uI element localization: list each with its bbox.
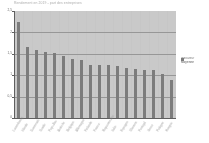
plot-inner bbox=[14, 11, 176, 118]
legend-item-1: Moyenne bbox=[181, 61, 208, 64]
chart-title: Rendement en 2019 - part des entreprises bbox=[14, 0, 164, 7]
y-axis-tick-label: 1,5 bbox=[1, 52, 12, 55]
bar bbox=[98, 65, 102, 119]
y-axis-labels: 2,521,510,50 bbox=[0, 0, 12, 143]
plot-column-stripe bbox=[140, 11, 141, 118]
plot-column-stripe bbox=[86, 11, 87, 118]
plot-column-stripe bbox=[158, 11, 159, 118]
y-axis-line bbox=[14, 11, 15, 119]
plot-column-stripe bbox=[32, 11, 33, 118]
x-axis-tick-label: Autriche bbox=[58, 122, 66, 133]
y-axis-tick-mark bbox=[12, 118, 14, 119]
x-axis-tick-label: France bbox=[94, 123, 101, 133]
bar bbox=[125, 68, 129, 119]
plot-column-stripe bbox=[167, 11, 168, 118]
bar bbox=[143, 70, 147, 118]
x-axis-labels: LuxembourgIrlandeDanemarkSuedePays-BasAu… bbox=[14, 119, 184, 143]
bar-chart: Rendement en 2019 - part des entreprises… bbox=[0, 0, 209, 143]
y-axis-tick-label: 1 bbox=[1, 73, 12, 76]
x-axis-tick-label: Pologne bbox=[157, 122, 165, 133]
y-axis-tick-label: 0,5 bbox=[1, 95, 12, 98]
x-axis-tick-label: Italie bbox=[112, 125, 118, 132]
x-axis-tick-label: Hongrie bbox=[166, 122, 174, 133]
bar bbox=[26, 47, 30, 118]
y-axis-tick-mark bbox=[12, 75, 14, 76]
y-axis-tick-mark bbox=[12, 97, 14, 98]
plot-column-stripe bbox=[77, 11, 78, 118]
gridline bbox=[14, 32, 176, 33]
plot-column-stripe bbox=[95, 11, 96, 118]
plot-column-stripe bbox=[23, 11, 24, 118]
y-axis-tick-label: 0 bbox=[1, 116, 12, 119]
plot-column-stripe bbox=[41, 11, 42, 118]
bar bbox=[44, 52, 48, 118]
x-axis-tick-label: Irlande bbox=[22, 123, 29, 132]
bar bbox=[134, 69, 138, 118]
plot-column-stripe bbox=[131, 11, 132, 118]
plot-column-stripe bbox=[50, 11, 51, 118]
plot-column-stripe bbox=[59, 11, 60, 118]
plot-column-stripe bbox=[104, 11, 105, 118]
y-axis-tick-mark bbox=[12, 54, 14, 55]
x-axis-tick-label: Portugal bbox=[139, 121, 147, 132]
y-axis-tick-mark bbox=[12, 11, 14, 12]
bar bbox=[35, 50, 39, 118]
x-axis-tick-label: Grece bbox=[148, 124, 155, 133]
bar bbox=[71, 59, 75, 118]
bar bbox=[161, 74, 165, 118]
bar bbox=[89, 65, 93, 119]
y-axis-tick-label: 2,5 bbox=[1, 9, 12, 12]
bar bbox=[170, 80, 174, 118]
chart-legend: Indicateur Moyenne bbox=[181, 57, 208, 70]
bar bbox=[152, 70, 156, 118]
plot-column-stripe bbox=[68, 11, 69, 118]
bar bbox=[116, 66, 120, 118]
bar bbox=[53, 53, 57, 118]
bar bbox=[80, 60, 84, 118]
bar bbox=[107, 65, 111, 119]
plot-column-stripe bbox=[122, 11, 123, 118]
legend-item-0: Indicateur bbox=[181, 57, 208, 60]
y-axis-tick-mark bbox=[12, 32, 14, 33]
x-axis-tick-label: Suede bbox=[40, 124, 47, 133]
plot-column-stripe bbox=[113, 11, 114, 118]
plot-area bbox=[14, 11, 176, 118]
y-axis-tick-label: 2 bbox=[1, 31, 12, 34]
bar bbox=[17, 22, 21, 118]
plot-column-stripe bbox=[149, 11, 150, 118]
bar bbox=[62, 56, 66, 118]
